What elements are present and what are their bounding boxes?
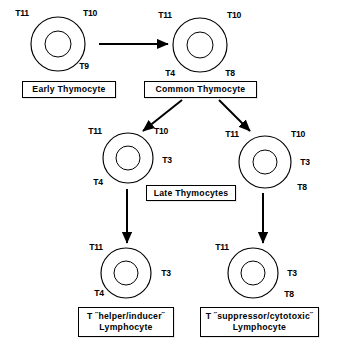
cell-late-thymocyte-suppressor: T11T10T3T8 [225,129,310,192]
diagram-canvas: T11T10T9T11T10T4T8T11T10T3T4T11T10T3T8T1… [0,0,352,355]
label-box-helper-inducer-label: T ˝helper/inducer˝ Lymphocyte [78,307,174,337]
cell-nucleus-circle [114,261,138,285]
label-box-suppressor-cytotoxic-label: T ˝suppressor/cytotoxic˝ Lymphocyte [200,307,319,337]
cell-nucleus-circle [241,261,265,285]
marker-label-t9: T9 [79,61,89,71]
cell-common-thymocyte: T11T10T4T8 [158,10,241,78]
cell-nucleus-circle [45,31,71,57]
marker-label-t8: T8 [297,182,307,192]
thymocyte-maturation-diagram: T11T10T9T11T10T4T8T11T10T3T4T11T10T3T8T1… [0,0,352,355]
marker-label-t11: T11 [89,242,103,252]
label-box-late-thymocytes-label: Late Thymocytes [146,185,236,201]
marker-label-t3: T3 [287,268,297,278]
marker-label-t11: T11 [15,8,29,18]
cell-layer: T11T10T9T11T10T4T8T11T10T3T4T11T10T3T8T1… [15,8,310,299]
marker-label-t4: T4 [93,177,103,187]
label-box-early-thymocyte-label: Early Thymocyte [22,81,116,98]
marker-label-t10: T10 [291,129,306,139]
label-box-common-thymocyte-label: Common Thymocyte [144,81,257,98]
arrow-common-to-late-right [219,100,250,131]
marker-label-t11: T11 [88,126,102,136]
cell-nucleus-circle [116,146,140,170]
cell-late-thymocyte-helper: T11T10T3T4 [88,126,172,187]
marker-label-t10: T10 [227,10,242,20]
marker-label-t10: T10 [83,8,98,18]
marker-label-t3: T3 [162,155,172,165]
marker-label-t3: T3 [300,157,310,167]
marker-label-t4: T4 [165,68,175,78]
marker-label-t8: T8 [225,68,235,78]
marker-label-t11: T11 [158,10,172,20]
marker-label-t10: T10 [154,126,169,136]
marker-label-t3: T3 [161,268,171,278]
cell-nucleus-circle [187,32,213,58]
marker-label-t11: T11 [215,242,229,252]
cell-early-thymocyte: T11T10T9 [15,8,97,71]
marker-label-t4: T4 [94,288,104,298]
marker-label-t8: T8 [284,289,294,299]
cell-suppressor-cytotoxic-lymphocyte: T11T3T8 [215,242,297,299]
marker-label-t11: T11 [225,129,239,139]
cell-nucleus-circle [253,150,277,174]
cell-helper-inducer-lymphocyte: T11T3T4 [89,242,171,298]
